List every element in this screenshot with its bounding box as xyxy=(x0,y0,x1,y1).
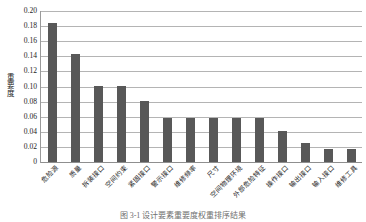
bar xyxy=(140,101,149,162)
bar xyxy=(163,118,172,162)
x-axis-tick: 操作接口 xyxy=(264,164,289,189)
x-axis-tick: 输入接口 xyxy=(310,164,335,189)
figure-caption-text: 图 3-1 设计要素重要度权重排序结果 xyxy=(0,210,366,221)
y-axis-tick: 0.02 xyxy=(24,143,37,151)
bar-series xyxy=(41,11,362,163)
bar xyxy=(94,86,103,162)
y-axis-tick: 0.12 xyxy=(24,67,37,75)
bar xyxy=(347,149,356,162)
bar xyxy=(186,118,195,162)
bar xyxy=(48,23,57,162)
x-axis-tick: 输出接口 xyxy=(287,164,312,189)
bar xyxy=(255,118,264,162)
x-axis-tick: 尺寸 xyxy=(205,164,220,179)
x-axis-tick: 拆装接口 xyxy=(80,164,105,189)
x-axis-tick: 质量 xyxy=(67,164,82,179)
y-axis-tick: 0.08 xyxy=(24,98,37,106)
bar xyxy=(301,143,310,162)
x-axis-tick: 紧固接口 xyxy=(126,164,151,189)
bar xyxy=(324,149,333,162)
x-axis-tick: 警示接口 xyxy=(149,164,174,189)
x-axis-tick-labels: 危险源质量拆装接口空间约束紧固接口警示接口维修频率尺寸空间物理环境外部危险特征操… xyxy=(40,164,362,206)
x-axis-tick: 维修频率 xyxy=(172,164,197,189)
bar xyxy=(209,118,218,162)
x-axis-tick: 空间约束 xyxy=(103,164,128,189)
bar xyxy=(117,86,126,162)
bar xyxy=(232,118,241,162)
bar-chart: 重要度 0.200.180.160.140.120.100.080.060.04… xyxy=(0,0,366,170)
y-axis-tick: 0.14 xyxy=(24,52,37,60)
plot-area xyxy=(40,11,362,163)
y-axis-tick: 0.04 xyxy=(24,128,37,136)
bar xyxy=(278,131,287,162)
y-axis-tick: 0 xyxy=(33,158,37,166)
y-axis-tick: 0.20 xyxy=(24,7,37,15)
y-axis-tick: 0.06 xyxy=(24,113,37,121)
x-axis-baseline xyxy=(41,162,362,163)
y-axis-tick: 0.16 xyxy=(24,37,37,45)
figure-caption: 图 3-1 设计要素重要度权重排序结果 xyxy=(0,210,366,222)
x-axis-tick: 危险源 xyxy=(39,164,59,184)
bar xyxy=(71,54,80,162)
x-axis-tick: 维修工具 xyxy=(333,164,358,189)
figure-container: 重要度 0.200.180.160.140.120.100.080.060.04… xyxy=(0,0,366,222)
y-axis-tick: 0.18 xyxy=(24,22,37,30)
y-axis-tick-labels: 0.200.180.160.140.120.100.080.060.040.02… xyxy=(12,8,38,164)
y-axis-tick: 0.10 xyxy=(24,83,37,91)
